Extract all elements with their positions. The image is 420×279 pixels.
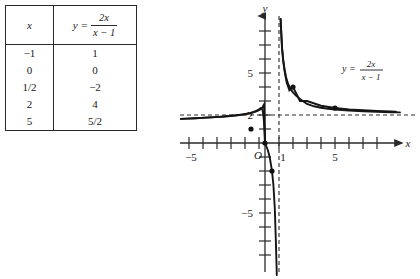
formula-numerator: 2x	[97, 12, 111, 23]
table-cell-x: 5	[27, 113, 33, 130]
table-header-x-label: x	[27, 19, 32, 31]
graph-svg: x y O −5 1 5 5 2 −5 y = 2x x − 1	[180, 0, 420, 279]
table-header-y: y = 2x x − 1	[54, 6, 136, 44]
data-point	[248, 126, 253, 131]
y-tick-label-2: 2	[248, 109, 254, 121]
table-cell-x: 2	[27, 96, 33, 113]
x-tick-label-1: 1	[280, 151, 286, 163]
table-body: −1 0 1/2 2 5 1 0 −2 4 5/2	[6, 45, 136, 130]
formula-denominator: x − 1	[91, 27, 117, 38]
table-cell-y: −2	[89, 79, 101, 96]
table-cell-y: 5/2	[88, 113, 102, 130]
table-column-x: −1 0 1/2 2 5	[6, 45, 54, 130]
table-column-y: 1 0 −2 4 5/2	[54, 45, 136, 130]
equation-denominator: x − 1	[360, 72, 380, 82]
fraction-bar	[91, 25, 117, 26]
table-cell-x: 0	[27, 62, 33, 79]
table-cell-y: 4	[92, 96, 98, 113]
data-point	[290, 84, 295, 89]
x-axis-label: x	[405, 137, 411, 149]
equation-numerator: 2x	[367, 59, 376, 69]
y-tick-label-neg5: −5	[241, 207, 253, 219]
y-axis-label: y	[262, 2, 268, 14]
data-point	[332, 105, 337, 110]
table-cell-x: 1/2	[22, 79, 36, 96]
x-tick-label-5: 5	[332, 151, 338, 163]
curve-right-branch-accurate	[281, 19, 400, 112]
table-cell-y: 1	[92, 45, 98, 62]
equation-prefix: y =	[341, 63, 356, 74]
function-graph: x y O −5 1 5 5 2 −5 y = 2x x − 1	[180, 0, 420, 279]
formula-fraction: 2x x − 1	[91, 12, 117, 37]
table-header-x: x	[6, 6, 54, 44]
table-header-row: x y = 2x x − 1	[6, 6, 136, 45]
table-cell-y: 0	[92, 62, 98, 79]
origin-label: O	[254, 149, 262, 161]
data-point	[262, 140, 267, 145]
x-tick-label-neg5: −5	[185, 151, 197, 163]
table-header-y-formula: y = 2x x − 1	[73, 12, 117, 37]
value-table: x y = 2x x − 1 −1 0 1/2 2 5 1 0 −2 4	[5, 5, 137, 131]
table-cell-x: −1	[24, 45, 36, 62]
formula-prefix: y =	[73, 19, 88, 31]
y-tick-label-5: 5	[248, 67, 254, 79]
equation-annotation: y = 2x x − 1	[341, 59, 383, 82]
data-point	[269, 168, 274, 173]
